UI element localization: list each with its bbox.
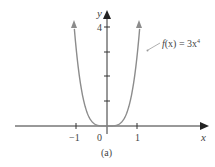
- y-axis-arrow-icon: [103, 10, 111, 19]
- curve-right-arrow-icon: [136, 20, 142, 28]
- function-plot: y 4 −1 0 1 x (a) f(x) = 3x4: [0, 0, 215, 167]
- x-axis-arrow-icon: [200, 122, 209, 130]
- annotation-pointer: [148, 43, 160, 50]
- annotation-dot-icon: [147, 50, 149, 52]
- function-label-body: (x) = 3x: [165, 38, 197, 50]
- function-label: f(x) = 3x4: [162, 38, 200, 50]
- x-tick-label-0: 0: [97, 132, 102, 143]
- y-tick-label-4: 4: [97, 22, 102, 33]
- function-label-exponent: 4: [197, 38, 200, 44]
- y-axis-label: y: [96, 7, 102, 19]
- x-axis-label: x: [200, 131, 206, 143]
- x-tick-label-neg1: −1: [69, 132, 80, 143]
- curve-left-arrow-icon: [71, 20, 77, 28]
- x-tick-label-1: 1: [135, 132, 140, 143]
- figure-caption: (a): [101, 147, 112, 159]
